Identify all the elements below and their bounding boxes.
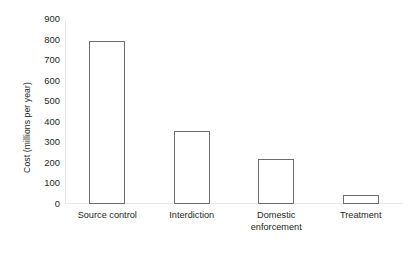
y-axis-tick-label: 100 [28,178,60,188]
y-axis-tick-label: 600 [28,76,60,86]
y-axis-tick-label: 500 [28,96,60,106]
bar-chart: Cost (millions per year) 900800700600500… [0,0,420,255]
y-axis-tick-label: 200 [28,158,60,168]
bar [258,159,294,204]
y-axis-tick-label: 0 [28,199,60,209]
y-axis-tick-label: 300 [28,137,60,147]
y-axis-tick-label: 700 [28,55,60,65]
x-axis-category-label-line: enforcement [234,221,319,233]
x-axis-category-label-line: Interdiction [150,209,235,221]
y-axis-tick-labels: 9008007006005004003002001000 [28,0,60,255]
x-axis-category-label: Interdiction [150,209,235,221]
x-axis-category-label-line: Domestic [234,209,319,221]
x-axis-category-label: Source control [65,209,150,221]
x-axis-category-label: Treatment [319,209,404,221]
plot-area [65,19,403,204]
y-axis-tick-label: 800 [28,35,60,45]
x-axis-category-labels: Source controlInterdictionDomesticenforc… [65,209,403,251]
x-axis-category-label-line: Treatment [319,209,404,221]
y-axis-tick-label: 900 [28,14,60,24]
bar [89,41,125,204]
y-axis-line [65,19,66,204]
bar [343,195,379,204]
bar [174,131,210,204]
x-axis-category-label: Domesticenforcement [234,209,319,233]
x-axis-category-label-line: Source control [65,209,150,221]
y-axis-tick-label: 400 [28,117,60,127]
